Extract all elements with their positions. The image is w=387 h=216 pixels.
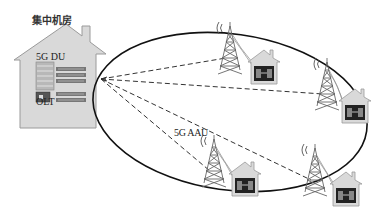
site-3 [201,135,261,196]
signal-wave-icon [302,144,307,156]
cell-tower-icon [303,144,327,196]
olt-label: OLT [36,96,55,107]
central-office-building [14,24,106,128]
fronthaul-dashed-link [101,58,226,79]
central-office-title: 集中机房 [32,12,72,27]
equipment-house-icon [330,172,362,206]
du-label: 5G DU [36,51,65,62]
cell-tower-icon [218,22,242,74]
network-diagram: 集中机房 5G DU OLT 5G AAU [0,0,387,216]
fiber-ring [82,16,377,209]
site-1 [217,22,280,84]
equipment-house-icon [229,162,261,196]
equipment-house-icon [339,89,371,123]
fronthaul-dashed-link [101,79,210,171]
fronthaul-dashed-link [101,79,323,94]
diagram-canvas [0,0,387,216]
aau-label: 5G AAU [174,127,208,138]
cell-tower-icon [202,135,226,187]
equipment-house-icon [248,50,280,84]
site-2 [314,58,371,123]
